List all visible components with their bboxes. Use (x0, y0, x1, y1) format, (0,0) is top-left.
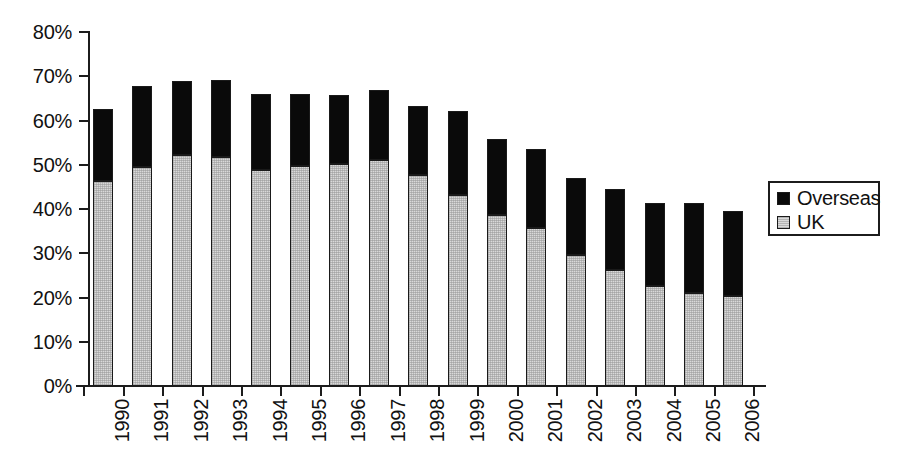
bar-segment-uk (526, 228, 546, 386)
x-axis-label: 1993 (230, 399, 250, 469)
x-axis-label: 1998 (427, 399, 447, 469)
x-axis-label: 2005 (703, 399, 723, 469)
x-axis-label: 2003 (624, 399, 644, 469)
bar-stack (723, 32, 743, 386)
bar-segment-uk (211, 157, 231, 386)
bar-segment-overseas (132, 86, 152, 167)
bar-segment-overseas (526, 149, 546, 228)
bar-segment-overseas (605, 189, 625, 270)
bar-segment-overseas (251, 94, 271, 169)
bar-segment-uk (605, 270, 625, 386)
bar-segment-overseas (369, 90, 389, 160)
bar-stack (211, 32, 231, 386)
uk-swatch-icon (777, 216, 790, 229)
bar-segment-uk (369, 160, 389, 386)
bar-segment-uk (251, 170, 271, 386)
bar-segment-uk (172, 155, 192, 386)
bar-segment-overseas (723, 211, 743, 296)
y-tick-label: 50% (0, 155, 72, 175)
bar-stack (329, 32, 349, 386)
y-tick-label: 60% (0, 111, 72, 131)
bar-stack (93, 32, 113, 386)
bar-segment-uk (93, 181, 113, 386)
y-tick-mark (79, 31, 88, 33)
x-axis-label: 1990 (112, 399, 132, 469)
y-tick-label: 80% (0, 22, 72, 42)
x-tick-mark (714, 387, 716, 396)
bar-segment-uk (408, 175, 428, 386)
bar-segment-uk (684, 293, 704, 386)
x-tick-mark (556, 387, 558, 396)
x-tick-mark (123, 387, 125, 396)
bar-segment-overseas (645, 203, 665, 286)
stacked-bar-chart: 0%10%20%30%40%50%60%70%80% 1990199119921… (0, 0, 905, 474)
bar-stack (132, 32, 152, 386)
bar-segment-uk (448, 195, 468, 386)
plot-area (88, 32, 760, 386)
x-tick-mark (83, 387, 85, 396)
bar-segment-uk (487, 215, 507, 386)
y-tick-mark (79, 208, 88, 210)
bar-segment-uk (329, 164, 349, 386)
bar-segment-overseas (408, 106, 428, 175)
bar-stack (172, 32, 192, 386)
legend-item: Overseas (777, 188, 880, 208)
y-tick-mark (79, 164, 88, 166)
legend-label: UK (797, 212, 824, 232)
x-axis-label: 1994 (270, 399, 290, 469)
x-axis-label: 2001 (545, 399, 565, 469)
bar-stack (645, 32, 665, 386)
x-tick-mark (162, 387, 164, 396)
bar-segment-uk (645, 286, 665, 386)
chart-legend: OverseasUK (768, 181, 880, 236)
bar-segment-overseas (172, 81, 192, 155)
x-tick-mark (359, 387, 361, 396)
bar-segment-overseas (290, 94, 310, 166)
x-axis-label: 2000 (506, 399, 526, 469)
y-tick-mark (79, 120, 88, 122)
bar-stack (251, 32, 271, 386)
bar-stack (566, 32, 586, 386)
y-tick-label: 70% (0, 66, 72, 86)
x-tick-mark (241, 387, 243, 396)
y-tick-mark (79, 297, 88, 299)
x-axis-label: 1997 (388, 399, 408, 469)
bar-segment-overseas (329, 95, 349, 164)
legend-label: Overseas (797, 188, 880, 208)
bar-stack (290, 32, 310, 386)
bar-stack (605, 32, 625, 386)
bar-segment-uk (290, 166, 310, 386)
y-tick-label: 10% (0, 332, 72, 352)
x-tick-mark (635, 387, 637, 396)
x-axis-label: 1996 (348, 399, 368, 469)
bar-segment-uk (566, 255, 586, 386)
legend-item: UK (777, 212, 824, 232)
y-tick-mark (79, 252, 88, 254)
y-tick-label: 20% (0, 288, 72, 308)
x-axis-label: 2002 (585, 399, 605, 469)
bar-segment-overseas (211, 80, 231, 157)
x-tick-mark (202, 387, 204, 396)
x-tick-mark (399, 387, 401, 396)
bar-stack (408, 32, 428, 386)
y-tick-label: 30% (0, 243, 72, 263)
y-tick-label: 0% (0, 376, 72, 396)
x-axis-label: 1995 (309, 399, 329, 469)
overseas-swatch-icon (777, 192, 790, 205)
bar-segment-overseas (93, 109, 113, 182)
x-tick-mark (438, 387, 440, 396)
y-tick-label: 40% (0, 199, 72, 219)
x-tick-mark (753, 387, 755, 396)
y-tick-mark (79, 341, 88, 343)
x-axis-label: 1999 (467, 399, 487, 469)
x-axis-label: 2004 (664, 399, 684, 469)
x-tick-mark (320, 387, 322, 396)
x-tick-mark (477, 387, 479, 396)
y-tick-mark (79, 75, 88, 77)
bar-segment-overseas (487, 139, 507, 215)
x-tick-mark (596, 387, 598, 396)
bar-segment-overseas (566, 178, 586, 255)
bar-stack (369, 32, 389, 386)
bar-stack (684, 32, 704, 386)
bar-stack (448, 32, 468, 386)
